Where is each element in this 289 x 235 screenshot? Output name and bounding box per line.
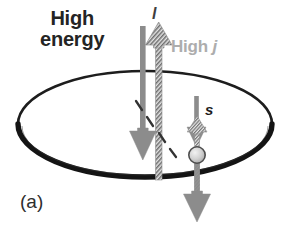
label-orbital-symbol: l bbox=[152, 6, 156, 23]
label-j-symbol: j bbox=[213, 37, 218, 56]
panel-label: (a) bbox=[20, 192, 43, 212]
label-high-energy: High energy bbox=[40, 8, 104, 50]
label-high-j: High j bbox=[171, 38, 217, 56]
label-spin-symbol: s bbox=[205, 102, 213, 118]
label-high-j-prefix: High bbox=[171, 37, 213, 56]
electron-circle bbox=[189, 147, 205, 163]
